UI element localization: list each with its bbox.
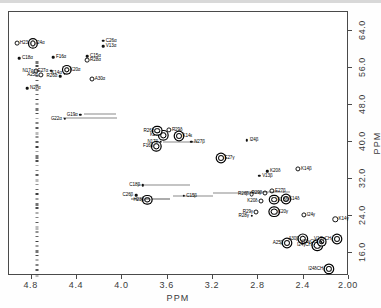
peak-label: R28γ	[239, 213, 249, 218]
y-axis: 16.024.032.040.048.056.064.0PPM	[348, 11, 381, 275]
noise-speck	[35, 113, 38, 115]
cross-peak[interactable]	[89, 76, 94, 81]
noise-speck	[35, 184, 38, 186]
x-axis-tick-label: 3.6	[160, 280, 174, 290]
peak-label: E27α	[38, 69, 48, 74]
cross-peak[interactable]	[271, 208, 278, 215]
cross-peak[interactable]	[176, 133, 182, 139]
cross-peak[interactable]	[154, 144, 159, 149]
x-axis-tick	[167, 275, 168, 279]
cross-peak[interactable]	[59, 75, 62, 78]
cross-peak[interactable]	[102, 39, 105, 42]
peak-label: C15α	[90, 54, 101, 59]
noise-speck	[35, 61, 38, 64]
cross-peak[interactable]	[269, 189, 274, 194]
cross-peak[interactable]	[52, 56, 55, 59]
noise-speck	[35, 207, 38, 209]
nmr-spectrum-figure: I24δCH₃A25βA30βI24γCH₃V13γCH₃V13'γCH₃K14…	[0, 0, 381, 308]
noise-speck	[35, 170, 38, 172]
noise-speck	[35, 236, 38, 238]
noise-speck	[35, 217, 38, 219]
noise-speck	[35, 132, 38, 135]
cross-peak[interactable]	[155, 128, 161, 134]
y-axis-tick-label: 48.0	[357, 94, 367, 114]
noise-speck	[35, 212, 38, 214]
cross-peak[interactable]	[333, 217, 338, 222]
cross-peak[interactable]	[258, 198, 263, 203]
y-axis-tick	[348, 141, 352, 142]
peak-label: K14α	[51, 71, 61, 76]
cross-peak[interactable]	[64, 67, 69, 72]
peak-label: N27β	[194, 139, 205, 144]
noise-speck	[35, 80, 38, 82]
x-axis-tick	[76, 275, 77, 279]
cross-peak-layer: I24δCH₃A25βA30βI24γCH₃V13γCH₃V13'γCH₃K14…	[9, 12, 347, 274]
peak-label: E27γ	[224, 156, 234, 161]
x-axis-tick-label: 3.2	[205, 280, 219, 290]
cross-peak[interactable]	[258, 175, 260, 177]
peak-label: H23β	[133, 198, 144, 203]
cross-peak[interactable]	[86, 55, 89, 58]
peak-label: I24δCH₃	[308, 266, 325, 271]
peak-label: I24α	[36, 41, 45, 46]
x-axis-tick-label: 4.0	[114, 280, 128, 290]
cross-peak[interactable]	[250, 215, 252, 217]
peak-label: F16α	[56, 55, 66, 60]
noise-speck	[35, 193, 38, 195]
cross-peak[interactable]	[26, 87, 29, 90]
noise-speck	[35, 103, 38, 105]
cross-peak[interactable]	[79, 114, 81, 116]
cross-peak[interactable]	[30, 41, 35, 46]
peak-label: K14ε	[183, 134, 193, 139]
cross-peak[interactable]	[263, 190, 268, 195]
cross-peak[interactable]	[160, 140, 163, 143]
cross-peak[interactable]	[301, 212, 306, 217]
cross-peak[interactable]	[135, 194, 138, 197]
y-axis-tick-label: 24.0	[357, 205, 367, 225]
peak-label: K14β	[301, 166, 311, 171]
peak-label: K14δ	[289, 197, 299, 202]
cross-peak[interactable]	[271, 197, 277, 203]
y-axis-tick	[348, 215, 352, 216]
cross-peak[interactable]	[326, 265, 332, 271]
noise-speck	[35, 155, 38, 158]
cross-peak[interactable]	[15, 41, 20, 46]
peak-label: R29β	[251, 190, 262, 195]
peak-label: I24γ	[307, 213, 315, 218]
noise-speck	[35, 165, 38, 167]
cross-peak[interactable]	[166, 127, 171, 132]
cross-peak[interactable]	[38, 72, 43, 77]
cross-peak[interactable]	[246, 139, 248, 141]
x-axis-tick	[348, 275, 349, 279]
cross-peak[interactable]	[85, 58, 90, 63]
cross-peak[interactable]	[145, 197, 150, 202]
noise-speck	[35, 245, 38, 247]
cross-peak[interactable]	[102, 45, 105, 48]
cross-peak[interactable]	[254, 209, 259, 214]
noise-speck	[35, 255, 38, 257]
peak-label: F16β	[143, 144, 153, 149]
peak-label: N27α	[30, 86, 41, 91]
cross-peak[interactable]	[18, 57, 21, 60]
y-axis-tick	[348, 30, 352, 31]
peak-label: K20γ	[278, 209, 288, 214]
cross-peak[interactable]	[334, 236, 340, 242]
cross-peak[interactable]	[160, 132, 165, 137]
noise-speck	[35, 118, 38, 120]
peak-label: G19α	[67, 113, 78, 118]
peak-label: N17β	[147, 139, 158, 144]
cross-peak[interactable]	[295, 166, 300, 171]
cross-peak[interactable]	[63, 72, 66, 75]
x-axis-tick-label: 4.4	[69, 280, 83, 290]
peak-label: V13α	[106, 44, 116, 49]
noise-speck	[35, 136, 38, 138]
peak-label: V13β	[262, 174, 272, 179]
cross-peak[interactable]	[283, 196, 289, 202]
peak-label: A25β	[273, 241, 283, 246]
peak-label: H23α	[20, 41, 31, 46]
peak-label: G22α	[51, 116, 62, 121]
noise-speck	[35, 226, 38, 229]
scan-artifact-band	[0, 0, 381, 3]
cross-peak[interactable]	[218, 155, 224, 161]
cross-peak[interactable]	[50, 70, 53, 73]
